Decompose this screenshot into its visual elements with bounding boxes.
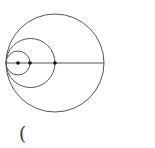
point-3 (53, 61, 57, 65)
point-1 (16, 61, 20, 65)
point-2 (28, 61, 32, 65)
caption-open-paren: ( (19, 124, 26, 144)
